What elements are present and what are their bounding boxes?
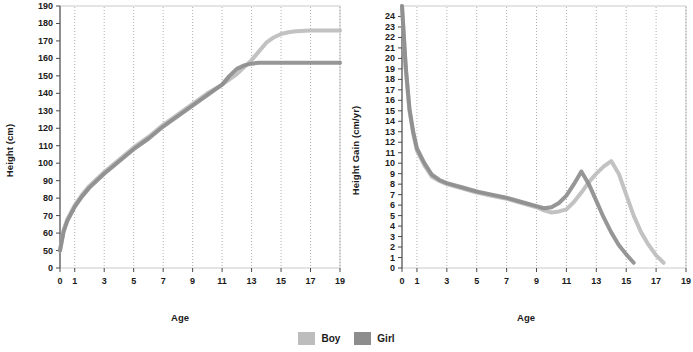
svg-text:1: 1: [72, 276, 77, 286]
svg-text:4: 4: [390, 221, 395, 231]
svg-text:19: 19: [385, 64, 395, 74]
svg-text:70: 70: [43, 211, 53, 221]
legend-label-girl: Girl: [377, 333, 394, 344]
svg-text:110: 110: [38, 141, 53, 151]
svg-text:0: 0: [48, 263, 53, 273]
height-gain-chart-svg: 0123456789101112131415161718192021222324…: [370, 6, 690, 296]
svg-text:15: 15: [621, 276, 631, 286]
svg-text:13: 13: [591, 276, 601, 286]
svg-text:11: 11: [562, 276, 572, 286]
svg-text:16: 16: [385, 95, 395, 105]
svg-text:150: 150: [38, 71, 53, 81]
svg-text:11: 11: [217, 276, 227, 286]
svg-text:180: 180: [38, 18, 53, 28]
svg-text:17: 17: [306, 276, 316, 286]
svg-text:7: 7: [504, 276, 509, 286]
svg-text:60: 60: [43, 228, 53, 238]
svg-text:9: 9: [390, 169, 395, 179]
svg-text:130: 130: [38, 106, 53, 116]
svg-text:120: 120: [38, 123, 53, 133]
height-gain-chart-x-axis-title: Age: [366, 312, 686, 323]
svg-text:17: 17: [651, 276, 661, 286]
svg-text:22: 22: [385, 32, 395, 42]
svg-text:0: 0: [57, 276, 62, 286]
svg-text:0: 0: [390, 263, 395, 273]
legend-label-boy: Boy: [321, 333, 340, 344]
svg-text:18: 18: [385, 74, 395, 84]
svg-text:15: 15: [385, 106, 395, 116]
svg-text:7: 7: [390, 190, 395, 200]
svg-text:9: 9: [534, 276, 539, 286]
legend-swatch-girl: [354, 332, 371, 345]
svg-text:6: 6: [390, 200, 395, 210]
svg-text:1: 1: [390, 253, 395, 263]
svg-text:190: 190: [38, 1, 53, 11]
svg-text:11: 11: [385, 148, 395, 158]
svg-text:20: 20: [385, 53, 395, 63]
height-chart-plot: 0506070809010011012013014015016017018019…: [24, 6, 344, 296]
svg-text:3: 3: [444, 276, 449, 286]
svg-text:23: 23: [385, 22, 395, 32]
svg-text:19: 19: [681, 276, 691, 286]
svg-text:24: 24: [385, 11, 395, 21]
svg-text:90: 90: [43, 176, 53, 186]
svg-text:12: 12: [385, 137, 395, 147]
legend-item-boy: Boy: [298, 332, 340, 345]
svg-text:17: 17: [385, 85, 395, 95]
svg-text:13: 13: [385, 127, 395, 137]
height-gain-chart-y-axis-title: Height Gain (cm/yr): [348, 0, 364, 300]
svg-text:5: 5: [474, 276, 479, 286]
svg-text:5: 5: [131, 276, 136, 286]
svg-text:7: 7: [161, 276, 166, 286]
svg-text:21: 21: [385, 43, 395, 53]
svg-text:2: 2: [390, 242, 395, 252]
height-gain-chart-panel: Height Gain (cm/yr) 01234567891011121314…: [346, 0, 693, 330]
height-chart-x-axis-title: Age: [20, 312, 340, 323]
svg-text:19: 19: [335, 276, 345, 286]
height-chart-panel: Height (cm) 0506070809010011012013014015…: [0, 0, 346, 330]
svg-text:8: 8: [390, 179, 395, 189]
svg-text:10: 10: [385, 158, 395, 168]
svg-text:14: 14: [385, 116, 395, 126]
svg-text:3: 3: [102, 276, 107, 286]
svg-text:5: 5: [390, 211, 395, 221]
legend-item-girl: Girl: [354, 332, 394, 345]
svg-text:13: 13: [247, 276, 257, 286]
svg-text:1: 1: [414, 276, 419, 286]
svg-text:80: 80: [43, 193, 53, 203]
svg-text:160: 160: [38, 53, 53, 63]
svg-text:0: 0: [399, 276, 404, 286]
svg-text:170: 170: [38, 36, 53, 46]
svg-text:3: 3: [390, 232, 395, 242]
chart-page: Height (cm) 0506070809010011012013014015…: [0, 0, 693, 352]
svg-text:9: 9: [190, 276, 195, 286]
legend-swatch-boy: [298, 332, 315, 345]
height-chart-y-axis-title: Height (cm): [2, 0, 18, 300]
height-chart-svg: 0506070809010011012013014015016017018019…: [24, 6, 344, 296]
chart-legend: Boy Girl: [0, 326, 693, 350]
svg-text:140: 140: [38, 88, 53, 98]
svg-text:50: 50: [43, 246, 53, 256]
svg-text:15: 15: [276, 276, 286, 286]
height-gain-chart-plot: 0123456789101112131415161718192021222324…: [370, 6, 690, 296]
svg-text:100: 100: [38, 158, 53, 168]
